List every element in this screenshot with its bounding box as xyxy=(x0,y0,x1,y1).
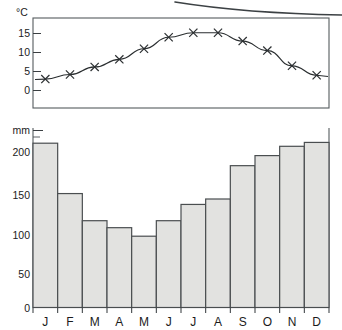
precipitation-bar-n-10 xyxy=(280,146,305,307)
precipitation-bar-o-9 xyxy=(255,156,280,308)
month-label-a-7: A xyxy=(214,315,222,329)
month-label-d-11: D xyxy=(312,315,321,329)
temperature-ytick-label-0: 0 xyxy=(24,84,30,96)
precipitation-axis-unit-label: mm xyxy=(13,124,31,136)
month-label-f-1: F xyxy=(66,315,73,329)
precipitation-ytick-label-200: 200 xyxy=(12,146,30,158)
month-label-s-8: S xyxy=(239,315,247,329)
precipitation-ytick-label-150: 150 xyxy=(12,189,30,201)
precipitation-bar-m-2 xyxy=(82,221,107,308)
precipitation-ytick-label-50: 50 xyxy=(18,268,30,280)
month-label-a-3: A xyxy=(115,315,123,329)
temperature-ytick-label-15: 15 xyxy=(18,27,30,39)
precipitation-bar-m-4 xyxy=(132,236,157,307)
month-label-m-2: M xyxy=(90,315,100,329)
precipitation-bar-j-0 xyxy=(33,143,58,307)
month-label-j-0: J xyxy=(42,315,48,329)
precipitation-bar-j-6 xyxy=(181,204,206,307)
month-label-n-10: N xyxy=(288,315,297,329)
temperature-axis-unit-label: °C xyxy=(16,6,28,18)
precipitation-bar-a-7 xyxy=(206,199,231,308)
precipitation-bar-f-1 xyxy=(58,194,83,308)
month-label-j-6: J xyxy=(190,315,196,329)
precipitation-ytick-label-0: 0 xyxy=(24,302,30,314)
temperature-ytick-label-5: 5 xyxy=(24,65,30,77)
precipitation-bar-s-8 xyxy=(230,166,255,308)
precipitation-bar-d-11 xyxy=(304,142,329,307)
month-label-o-9: O xyxy=(263,315,272,329)
month-label-m-4: M xyxy=(139,315,149,329)
climograph-figure: °C 15 10 5 0 mm 200 150 100 50 xyxy=(0,0,342,330)
precipitation-bar-j-5 xyxy=(156,221,181,308)
precipitation-bar-a-3 xyxy=(107,228,132,308)
month-label-j-5: J xyxy=(166,315,172,329)
precipitation-ytick-label-100: 100 xyxy=(12,229,30,241)
temperature-ytick-label-10: 10 xyxy=(18,46,30,58)
